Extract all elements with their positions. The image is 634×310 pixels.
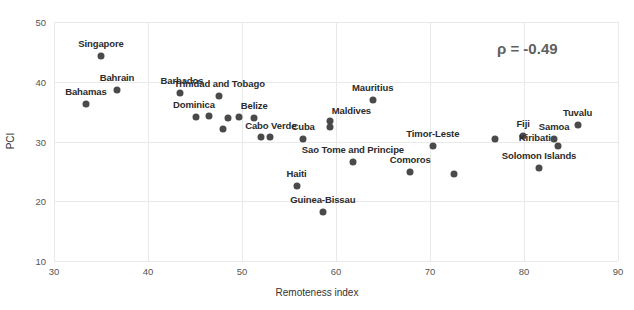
x-tick-label: 40 bbox=[143, 266, 154, 277]
data-point-label: Kiribati bbox=[519, 132, 551, 143]
data-point-label: Mauritius bbox=[352, 82, 393, 93]
y-tick-label: 30 bbox=[24, 136, 46, 147]
data-point[interactable] bbox=[82, 100, 89, 107]
data-point-label: Trinidad and Tobago bbox=[174, 78, 265, 89]
x-tick-label: 80 bbox=[519, 266, 530, 277]
data-point-label: Cabo Verde bbox=[245, 120, 296, 131]
data-point-label: Tuvalu bbox=[563, 107, 592, 118]
data-point[interactable] bbox=[267, 134, 274, 141]
x-tick-label: 50 bbox=[237, 266, 248, 277]
data-point-label: Bahamas bbox=[65, 86, 107, 97]
data-point[interactable] bbox=[176, 89, 183, 96]
data-point[interactable] bbox=[574, 121, 581, 128]
y-tick-label: 20 bbox=[24, 196, 46, 207]
data-point[interactable] bbox=[216, 93, 223, 100]
data-point[interactable] bbox=[491, 135, 498, 142]
data-point[interactable] bbox=[300, 135, 307, 142]
data-point[interactable] bbox=[536, 165, 543, 172]
data-point-label: Singapore bbox=[78, 38, 124, 49]
plot-area: SingaporeBahrainBahamasBarbadosTrinidad … bbox=[54, 22, 618, 261]
data-point[interactable] bbox=[327, 124, 334, 131]
x-axis-label: Remoteness index bbox=[0, 287, 634, 298]
y-tick-label: 10 bbox=[24, 256, 46, 267]
data-point-label: Comoros bbox=[390, 154, 431, 165]
data-point[interactable] bbox=[236, 114, 243, 121]
data-point-label: Fiji bbox=[516, 118, 529, 129]
data-point[interactable] bbox=[450, 171, 457, 178]
y-gridline bbox=[54, 82, 618, 83]
data-point[interactable] bbox=[220, 125, 227, 132]
data-point[interactable] bbox=[192, 114, 199, 121]
data-point-label: Bahrain bbox=[100, 72, 135, 83]
data-point-label: Dominica bbox=[173, 99, 215, 110]
y-tick-label: 40 bbox=[24, 76, 46, 87]
data-point-label: Maldives bbox=[332, 105, 371, 116]
data-point[interactable] bbox=[429, 143, 436, 150]
data-point[interactable] bbox=[551, 136, 558, 143]
x-tick-label: 90 bbox=[613, 266, 624, 277]
data-point[interactable] bbox=[98, 53, 105, 60]
data-point[interactable] bbox=[206, 113, 213, 120]
data-point[interactable] bbox=[369, 97, 376, 104]
x-tick-label: 70 bbox=[425, 266, 436, 277]
data-point[interactable] bbox=[257, 134, 264, 141]
scatter-plot-figure: SingaporeBahrainBahamasBarbadosTrinidad … bbox=[0, 0, 634, 310]
y-gridline bbox=[54, 22, 618, 23]
x-tick-label: 30 bbox=[49, 266, 60, 277]
data-point[interactable] bbox=[293, 182, 300, 189]
data-point[interactable] bbox=[349, 158, 356, 165]
data-point-label: Timor-Leste bbox=[406, 128, 459, 139]
x-gridline bbox=[618, 22, 619, 261]
y-axis-label: PCI bbox=[5, 133, 16, 150]
data-point[interactable] bbox=[113, 87, 120, 94]
x-tick-label: 60 bbox=[331, 266, 342, 277]
data-point-label: Haiti bbox=[286, 168, 306, 179]
data-point[interactable] bbox=[407, 168, 414, 175]
data-point[interactable] bbox=[319, 209, 326, 216]
data-point-label: Guinea-Bissau bbox=[290, 194, 355, 205]
data-point-label: Cuba bbox=[291, 121, 314, 132]
data-point-label: Sao Tome and Principe bbox=[302, 144, 404, 155]
data-point-label: Belize bbox=[241, 100, 268, 111]
data-point[interactable] bbox=[224, 115, 231, 122]
data-point-label: Solomon Islands bbox=[502, 150, 577, 161]
y-gridline bbox=[54, 261, 618, 262]
data-point-label: Samoa bbox=[539, 121, 570, 132]
data-point[interactable] bbox=[554, 143, 561, 150]
y-tick-label: 50 bbox=[24, 17, 46, 28]
correlation-annotation: ρ = -0.49 bbox=[497, 40, 558, 57]
